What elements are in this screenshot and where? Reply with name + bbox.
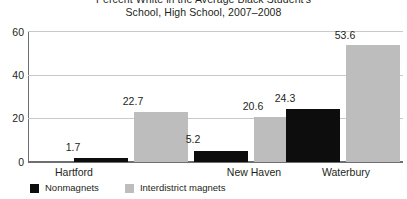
legend-item-interdistrict-magnets[interactable]: Interdistrict magnets: [125, 183, 226, 193]
bar-chart: Percent White in the Average Black Stude…: [0, 0, 407, 199]
legend-swatch-icon-nonmagnets: [30, 184, 39, 193]
bar-new-haven-nonmagnets: [194, 151, 248, 162]
x-axis-label-waterbury: Waterbury: [286, 166, 406, 178]
legend-swatch-icon-interdistrict-magnets: [125, 184, 134, 193]
y-axis-tick-60: 60: [0, 27, 24, 38]
bar-waterbury-nonmagnets: [286, 109, 340, 162]
chart-title: Percent White in the Average Black Stude…: [0, 0, 407, 18]
value-label-hartford-nonmagnets: 1.7: [46, 142, 100, 153]
y-axis-tick-20: 20: [0, 113, 24, 124]
value-label-new-haven-nonmagnets: 5.2: [166, 134, 220, 145]
y-axis-tick-40: 40: [0, 70, 24, 81]
bar-hartford-nonmagnets: [74, 158, 128, 162]
value-label-waterbury-nonmagnets: 24.3: [258, 93, 312, 104]
chart-legend: Nonmagnets Interdistrict magnets: [30, 183, 225, 193]
bar-waterbury-interdistrict-magnets: [346, 45, 400, 162]
legend-item-nonmagnets[interactable]: Nonmagnets: [30, 183, 99, 193]
value-label-hartford-interdistrict-magnets: 22.7: [106, 96, 160, 107]
legend-label-interdistrict-magnets: Interdistrict magnets: [140, 183, 226, 193]
legend-label-nonmagnets: Nonmagnets: [45, 183, 99, 193]
x-axis-label-hartford: Hartford: [14, 166, 134, 178]
value-label-waterbury-interdistrict-magnets: 53.6: [318, 30, 372, 41]
